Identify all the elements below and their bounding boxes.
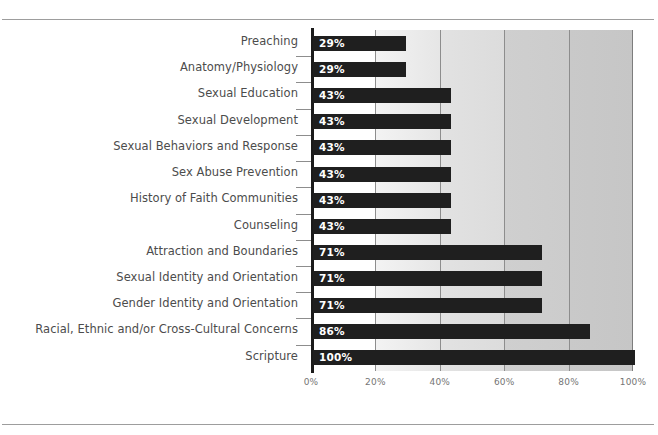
bar-track: 43% bbox=[313, 114, 635, 129]
category-label: Sexual Development bbox=[178, 113, 298, 127]
category-label: History of Faith Communities bbox=[130, 191, 298, 205]
bar-row: Sex Abuse Prevention43% bbox=[0, 161, 658, 187]
bar-value-label: 100% bbox=[319, 351, 352, 364]
category-axis-tick bbox=[296, 292, 311, 293]
bar-row: Anatomy/Physiology29% bbox=[0, 56, 658, 82]
category-axis-tick bbox=[296, 56, 311, 57]
bar-track: 71% bbox=[313, 271, 635, 286]
bar-value-label: 43% bbox=[319, 89, 345, 102]
bar: 43% bbox=[313, 114, 451, 129]
bar: 29% bbox=[313, 62, 406, 77]
bar-track: 86% bbox=[313, 324, 635, 339]
value-axis-tick-label: 20% bbox=[365, 377, 386, 387]
bar: 86% bbox=[313, 324, 590, 339]
category-label: Attraction and Boundaries bbox=[146, 244, 298, 258]
bar-rows: Preaching29%Anatomy/Physiology29%Sexual … bbox=[0, 30, 658, 371]
bar-value-label: 43% bbox=[319, 168, 345, 181]
category-label: Sexual Behaviors and Response bbox=[113, 139, 298, 153]
category-axis-tick bbox=[296, 318, 311, 319]
category-axis-tick bbox=[296, 82, 311, 83]
bar-value-label: 71% bbox=[319, 272, 345, 285]
value-axis-tick-label: 0% bbox=[304, 377, 319, 387]
bar-row: Gender Identity and Orientation71% bbox=[0, 292, 658, 318]
bar: 100% bbox=[313, 350, 635, 365]
bar-track: 29% bbox=[313, 36, 635, 51]
horizontal-bar-chart: Preaching29%Anatomy/Physiology29%Sexual … bbox=[0, 24, 658, 416]
bar: 43% bbox=[313, 140, 451, 155]
bar: 71% bbox=[313, 298, 542, 313]
bar-track: 43% bbox=[313, 88, 635, 103]
bar-value-label: 43% bbox=[319, 194, 345, 207]
bar-row: Sexual Education43% bbox=[0, 82, 658, 108]
bar-value-label: 71% bbox=[319, 246, 345, 259]
value-axis-tick-label: 40% bbox=[429, 377, 450, 387]
category-axis-tick bbox=[296, 266, 311, 267]
bar: 71% bbox=[313, 245, 542, 260]
bar-value-label: 29% bbox=[319, 37, 345, 50]
bar-row: Counseling43% bbox=[0, 214, 658, 240]
bar-track: 71% bbox=[313, 298, 635, 313]
bar-track: 43% bbox=[313, 193, 635, 208]
bar-value-label: 43% bbox=[319, 220, 345, 233]
value-axis-ticks: 0%20%40%60%80%100% bbox=[311, 377, 633, 393]
category-label: Sexual Identity and Orientation bbox=[116, 270, 298, 284]
category-axis-tick bbox=[296, 214, 311, 215]
bar-row: Attraction and Boundaries71% bbox=[0, 240, 658, 266]
category-axis-tick bbox=[296, 161, 311, 162]
header-divider-rule bbox=[2, 19, 654, 20]
bar-row: Sexual Development43% bbox=[0, 109, 658, 135]
category-axis-tick bbox=[296, 135, 311, 136]
cut-off-header-sliver bbox=[0, 0, 658, 9]
chart-page: Preaching29%Anatomy/Physiology29%Sexual … bbox=[0, 0, 658, 435]
bar-value-label: 86% bbox=[319, 325, 345, 338]
category-axis-tick bbox=[296, 345, 311, 346]
value-axis-tick-label: 60% bbox=[494, 377, 515, 387]
bar-track: 71% bbox=[313, 245, 635, 260]
bar-row: Sexual Behaviors and Response43% bbox=[0, 135, 658, 161]
value-axis-tick-label: 80% bbox=[558, 377, 579, 387]
category-label: Racial, Ethnic and/or Cross-Cultural Con… bbox=[35, 322, 298, 336]
bar-row: Sexual Identity and Orientation71% bbox=[0, 266, 658, 292]
bar: 29% bbox=[313, 36, 406, 51]
bar-value-label: 43% bbox=[319, 115, 345, 128]
category-label: Sex Abuse Prevention bbox=[172, 165, 298, 179]
bar-row: Scripture100% bbox=[0, 345, 658, 371]
bar-value-label: 29% bbox=[319, 63, 345, 76]
bar-row: History of Faith Communities43% bbox=[0, 187, 658, 213]
category-axis-tick bbox=[296, 187, 311, 188]
category-label: Sexual Education bbox=[198, 86, 298, 100]
category-axis-tick bbox=[296, 240, 311, 241]
bar-track: 43% bbox=[313, 140, 635, 155]
category-label: Gender Identity and Orientation bbox=[112, 296, 298, 310]
bar-track: 43% bbox=[313, 167, 635, 182]
bar-row: Preaching29% bbox=[0, 30, 658, 56]
bar: 43% bbox=[313, 167, 451, 182]
bar: 71% bbox=[313, 271, 542, 286]
category-label: Anatomy/Physiology bbox=[180, 60, 298, 74]
bar-row: Racial, Ethnic and/or Cross-Cultural Con… bbox=[0, 318, 658, 344]
bar-value-label: 43% bbox=[319, 141, 345, 154]
bar-track: 100% bbox=[313, 350, 635, 365]
bar: 43% bbox=[313, 88, 451, 103]
bar-track: 29% bbox=[313, 62, 635, 77]
category-label: Scripture bbox=[245, 349, 298, 363]
category-label: Preaching bbox=[241, 34, 298, 48]
category-axis-tick bbox=[296, 109, 311, 110]
footer-divider-rule bbox=[2, 424, 654, 425]
bar-value-label: 71% bbox=[319, 299, 345, 312]
bar-track: 43% bbox=[313, 219, 635, 234]
category-label: Counseling bbox=[234, 218, 298, 232]
bar: 43% bbox=[313, 219, 451, 234]
bar: 43% bbox=[313, 193, 451, 208]
value-axis-tick-label: 100% bbox=[620, 377, 647, 387]
